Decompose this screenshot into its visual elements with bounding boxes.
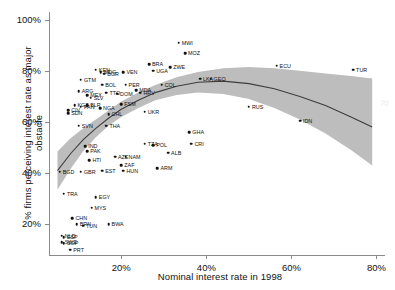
y-tick-label: 80% xyxy=(7,65,41,76)
data-point xyxy=(90,206,93,209)
x-tick-mark xyxy=(206,255,207,259)
data-point xyxy=(122,169,125,172)
data-point-label: CRI xyxy=(194,141,203,147)
data-point xyxy=(122,71,125,74)
data-point-label: PAK xyxy=(90,148,100,154)
data-point-label: HRV xyxy=(143,90,154,96)
data-point-label: GHA xyxy=(192,129,204,135)
x-tick-mark xyxy=(376,255,377,259)
data-point xyxy=(107,223,110,226)
data-point-label: COL xyxy=(165,82,176,88)
data-point-label: ALB xyxy=(171,150,181,156)
data-point xyxy=(124,155,127,158)
data-point xyxy=(94,196,97,199)
data-point xyxy=(169,66,172,69)
data-point-label: TRA xyxy=(67,191,78,197)
data-point xyxy=(275,64,278,67)
data-point xyxy=(352,68,355,71)
data-point xyxy=(99,107,102,110)
data-point-label: BGR xyxy=(107,71,119,77)
data-point xyxy=(167,151,170,154)
data-point-label: SGP xyxy=(67,240,78,246)
data-point xyxy=(188,131,191,134)
data-point-label: FSM xyxy=(124,101,135,107)
data-point xyxy=(152,70,155,73)
y-tick-label: 100% xyxy=(7,14,41,25)
data-point xyxy=(120,103,123,106)
data-point xyxy=(114,155,117,158)
data-point xyxy=(101,169,104,172)
data-point xyxy=(80,78,83,81)
data-point-label: CHN xyxy=(75,215,87,221)
data-point xyxy=(58,171,61,174)
data-point xyxy=(67,109,70,112)
data-point xyxy=(139,91,142,94)
data-point-label: NAM xyxy=(129,154,141,160)
data-point-label: TUN xyxy=(86,223,97,229)
x-tick-label: 60% xyxy=(271,262,311,273)
data-point xyxy=(86,150,89,153)
data-point-label: SVN xyxy=(82,123,93,129)
x-tick-label: 20% xyxy=(101,262,141,273)
data-point-label: MOZ xyxy=(188,50,200,56)
data-point-label: TTO xyxy=(109,90,120,96)
data-point-label: HUN xyxy=(126,168,138,174)
data-point xyxy=(135,89,138,92)
data-point-label: POL xyxy=(156,142,167,148)
data-point-label: TUR xyxy=(356,67,367,73)
data-point xyxy=(299,119,302,122)
data-point xyxy=(84,145,87,148)
data-point xyxy=(124,84,127,87)
data-point xyxy=(103,73,106,76)
data-point-label: THA xyxy=(109,123,120,129)
data-point-label: MYS xyxy=(95,205,107,211)
data-point-label: GTM xyxy=(84,77,96,83)
data-point xyxy=(199,77,202,80)
data-point xyxy=(86,104,89,107)
data-point-label: ZWE xyxy=(173,64,185,70)
x-tick-label: 40% xyxy=(186,262,226,273)
data-point xyxy=(86,94,89,97)
data-point-label: PRT xyxy=(73,247,84,253)
data-point-label: SLV xyxy=(94,95,104,101)
data-point xyxy=(73,104,76,107)
data-point xyxy=(143,110,146,113)
data-point-label: GBR xyxy=(84,169,96,175)
data-point-label: ARM xyxy=(160,165,172,171)
fit-layer xyxy=(49,12,385,255)
data-point-label: IDN xyxy=(303,118,312,124)
x-axis-line xyxy=(49,255,385,256)
data-point xyxy=(177,41,180,44)
data-point xyxy=(116,93,119,96)
data-point-label: BWA xyxy=(112,221,124,227)
data-point xyxy=(190,142,193,145)
data-point-label: BOL xyxy=(105,82,116,88)
data-point-label: DOM xyxy=(120,91,133,97)
data-point-label: PER xyxy=(129,82,140,88)
data-point xyxy=(156,167,159,170)
data-point xyxy=(80,171,83,174)
data-point-label: MWI xyxy=(182,40,193,46)
y-axis-title: % firms perceiving interest rate as majo… xyxy=(22,28,44,238)
data-point-label: ECU xyxy=(280,63,291,69)
chart-root: % firms perceiving interest rate as majo… xyxy=(0,0,395,290)
data-point xyxy=(89,96,92,99)
x-tick-mark xyxy=(121,255,122,259)
data-point xyxy=(209,77,212,80)
data-point xyxy=(160,84,163,87)
data-point-label: EGY xyxy=(99,194,110,200)
data-point xyxy=(100,71,103,74)
x-tick-mark xyxy=(291,255,292,259)
data-point xyxy=(107,113,110,116)
data-point-label: CHL xyxy=(112,111,123,117)
data-point xyxy=(248,105,251,108)
y-tick-label: 20% xyxy=(7,218,41,229)
plot-area: MWIMOZBRAUGAZWEECUTURKENMDGBGRVENGTMBOLP… xyxy=(49,12,385,255)
x-tick-label: 80% xyxy=(356,262,395,273)
data-point-label: GEO xyxy=(214,76,226,82)
data-point xyxy=(88,159,91,162)
data-point xyxy=(105,91,108,94)
data-point-label: RUS xyxy=(252,104,263,110)
data-point-label: NGA xyxy=(103,105,115,111)
data-point xyxy=(143,142,146,145)
